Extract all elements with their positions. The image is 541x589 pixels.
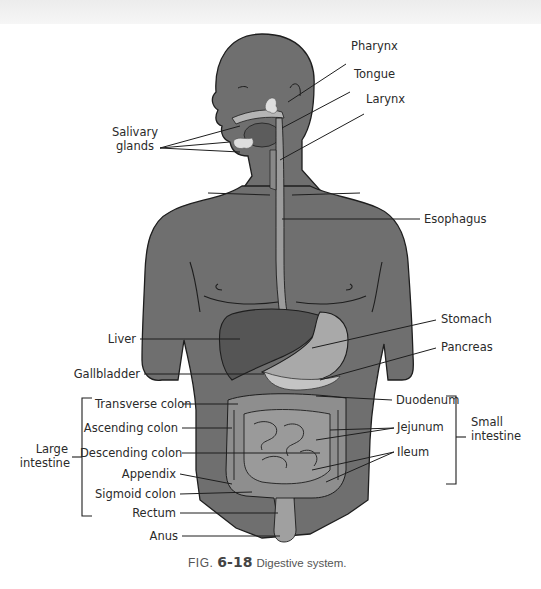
- label-large-intestine-line1: Large: [14, 443, 68, 456]
- figure-prefix: FIG.: [188, 556, 213, 570]
- label-appendix: Appendix: [100, 468, 176, 481]
- label-tongue: Tongue: [354, 68, 395, 81]
- label-anus: Anus: [100, 530, 178, 543]
- label-large-intestine-line2: intestine: [14, 457, 70, 470]
- label-gallbladder: Gallbladder: [50, 368, 140, 381]
- label-small-intestine-line1: Small: [471, 416, 503, 429]
- label-small-intestine-line2: intestine: [471, 430, 521, 443]
- label-stomach: Stomach: [441, 313, 492, 326]
- label-sigmoid-colon: Sigmoid colon: [80, 488, 176, 501]
- label-salivary-glands-line2: glands: [104, 140, 154, 153]
- label-larynx: Larynx: [366, 93, 405, 106]
- label-pancreas: Pancreas: [441, 341, 493, 354]
- label-descending-colon: Descending colon: [80, 447, 178, 460]
- label-liver: Liver: [80, 333, 136, 346]
- label-ileum: Ileum: [397, 446, 429, 459]
- figure-caption-text: Digestive system.: [256, 557, 346, 569]
- label-esophagus: Esophagus: [424, 213, 487, 226]
- label-transverse-colon: Transverse colon: [95, 398, 192, 411]
- label-rectum: Rectum: [100, 507, 176, 520]
- figure-caption: FIG.6-18Digestive system.: [188, 554, 347, 570]
- label-salivary-glands-line1: Salivary: [104, 126, 158, 139]
- small-intestine-shape: [244, 410, 330, 484]
- label-duodenum: Duodenum: [396, 394, 459, 407]
- label-ascending-colon: Ascending colon: [80, 422, 178, 435]
- figure-number: 6-18: [217, 554, 252, 570]
- label-jejunum: Jejunum: [397, 421, 444, 434]
- rectum-shape: [274, 498, 296, 542]
- label-pharynx: Pharynx: [351, 40, 398, 53]
